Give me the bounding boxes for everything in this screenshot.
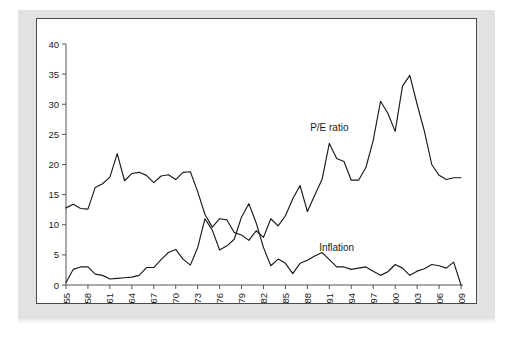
x-tick-label: 1970 — [170, 293, 181, 304]
x-tick-label: 1973 — [192, 293, 203, 304]
x-axis: 1955195819611964196719701973197619791982… — [61, 285, 467, 304]
x-tick-label: 1991 — [324, 293, 335, 304]
y-tick-label: 30 — [48, 99, 59, 110]
x-tick-label: 1985 — [280, 293, 291, 304]
series-annotations: P/E ratioInflation — [310, 122, 354, 253]
x-tick-label: 2003 — [412, 293, 423, 304]
x-tick-label: 1994 — [346, 293, 357, 304]
x-tick-label: 1976 — [214, 293, 225, 304]
y-tick-label: 5 — [54, 249, 59, 260]
x-tick-label: 1997 — [368, 293, 379, 304]
x-tick-label: 2009 — [456, 293, 467, 304]
x-tick-label: 1961 — [104, 293, 115, 304]
x-tick-label: 1964 — [126, 293, 137, 304]
y-tick-label: 10 — [48, 219, 59, 230]
y-tick-label: 15 — [48, 189, 59, 200]
figure-drop-shadow — [18, 316, 495, 324]
y-tick-label: 25 — [48, 129, 59, 140]
series-label-p-e-ratio: P/E ratio — [310, 122, 349, 133]
series-label-inflation: Inflation — [319, 242, 354, 253]
x-tick-label: 1955 — [61, 293, 72, 304]
series-line-inflation — [66, 204, 461, 285]
y-tick-label: 20 — [48, 159, 59, 170]
x-tick-label: 2006 — [434, 293, 445, 304]
x-tick-label: 1979 — [236, 293, 247, 304]
series-line-p-e-ratio — [66, 75, 461, 240]
x-tick-label: 2000 — [390, 293, 401, 304]
y-axis: 0510152025303540 — [48, 39, 66, 291]
y-tick-label: 40 — [48, 39, 59, 50]
y-tick-label: 0 — [54, 280, 59, 291]
y-tick-label: 35 — [48, 69, 59, 80]
x-tick-label: 1982 — [258, 293, 269, 304]
figure-root: 0510152025303540 19551958196119641967197… — [0, 0, 513, 338]
x-tick-label: 1988 — [302, 293, 313, 304]
series-layer — [66, 75, 461, 285]
line-chart: 0510152025303540 19551958196119641967197… — [36, 18, 477, 304]
x-tick-label: 1967 — [148, 293, 159, 304]
x-tick-label: 1958 — [82, 293, 93, 304]
